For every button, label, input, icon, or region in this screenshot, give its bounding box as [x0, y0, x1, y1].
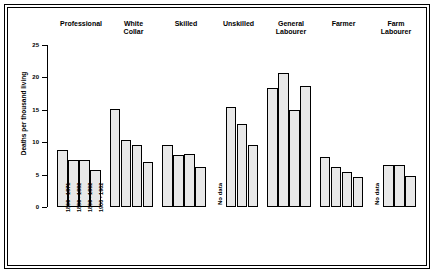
y-tick-mark	[42, 175, 47, 176]
y-tick-label: 0	[21, 204, 39, 210]
x-tick-label: 1900 - 1902	[98, 183, 104, 212]
y-tick-label: 5	[21, 172, 39, 178]
bar-group	[110, 45, 158, 207]
bar-group	[162, 45, 210, 207]
y-axis-line	[47, 45, 48, 207]
bar	[383, 165, 394, 207]
bar	[237, 124, 248, 207]
no-data-label: No data	[217, 183, 223, 205]
y-tick-mark	[42, 45, 47, 46]
bar	[353, 177, 364, 207]
bar	[162, 145, 173, 207]
y-tick-mark	[42, 207, 47, 208]
bar-group	[320, 45, 368, 207]
bar	[278, 73, 289, 207]
no-data-label: No data	[374, 183, 380, 205]
bar	[267, 88, 278, 207]
y-tick-mark	[42, 77, 47, 78]
bar	[195, 167, 206, 207]
bar-group	[267, 45, 315, 207]
y-tick-label: 15	[21, 107, 39, 113]
bar	[226, 107, 237, 207]
bar	[342, 172, 353, 207]
bar-group: No data	[215, 45, 263, 207]
bar	[394, 165, 405, 207]
group-header-farm-labourer: FarmLabourer	[364, 20, 428, 36]
x-tick-label: 1890 - 1892	[87, 183, 93, 212]
x-tick-label: 1880 - 1882	[76, 183, 82, 212]
bar	[110, 109, 121, 207]
bar	[184, 154, 195, 207]
bar	[248, 145, 259, 207]
bar	[289, 110, 300, 207]
y-tick-mark	[42, 142, 47, 143]
x-tick-label: 1860 - 1871	[65, 183, 71, 212]
y-tick-label: 20	[21, 74, 39, 80]
bar	[331, 167, 342, 207]
bar	[320, 157, 331, 207]
chart-plot-area: Deaths per thousand living 0510152025 Pr…	[0, 0, 436, 275]
bar	[300, 86, 311, 207]
y-tick-label: 10	[21, 139, 39, 145]
bar	[173, 155, 184, 207]
bar	[405, 176, 416, 207]
y-axis-title: Deaths per thousand living	[20, 49, 27, 179]
bar	[121, 140, 132, 207]
y-tick-mark	[42, 110, 47, 111]
bar-group: No data	[372, 45, 420, 207]
bar	[143, 162, 154, 207]
y-tick-label: 25	[21, 42, 39, 48]
bar	[132, 145, 143, 207]
